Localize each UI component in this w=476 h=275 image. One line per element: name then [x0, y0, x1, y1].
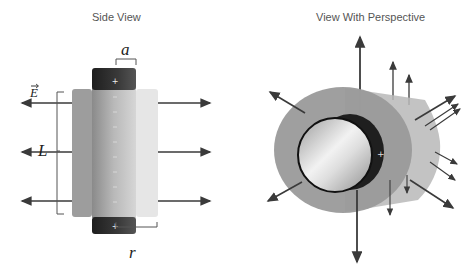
- inner-radius-label: a: [121, 40, 130, 59]
- inner-radius-bracket: [116, 59, 136, 65]
- gaussian-shell-left: [72, 89, 92, 217]
- outer-radius-label: r: [129, 243, 136, 262]
- length-bracket: [57, 92, 64, 214]
- rod-end-face: [298, 118, 372, 192]
- diagram-canvas: + + E: [0, 0, 476, 275]
- perspective-view-diagram: +: [268, 37, 460, 262]
- length-label: L: [37, 141, 47, 160]
- charge-sign: +: [377, 149, 385, 159]
- gaussian-shell-right: [136, 89, 158, 217]
- svg-text:+: +: [112, 77, 119, 86]
- charged-rod: [92, 88, 136, 218]
- side-view-diagram: + + E: [22, 40, 210, 262]
